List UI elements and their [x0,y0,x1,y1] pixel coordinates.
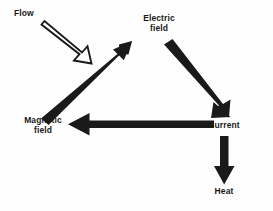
arrow-current-to-magnetic [68,113,214,136]
node-label-current: Current [196,121,252,131]
node-label-electric-field: Electric field [131,14,187,33]
arrow-current-to-heat [214,136,235,185]
node-label-magnetic-field: Magnetic field [12,116,74,135]
arrow-flow-to-cycle [42,21,92,64]
arrow-electric-to-current [164,39,231,118]
node-label-heat: Heat [202,187,246,197]
node-label-flow: Flow [14,9,54,19]
